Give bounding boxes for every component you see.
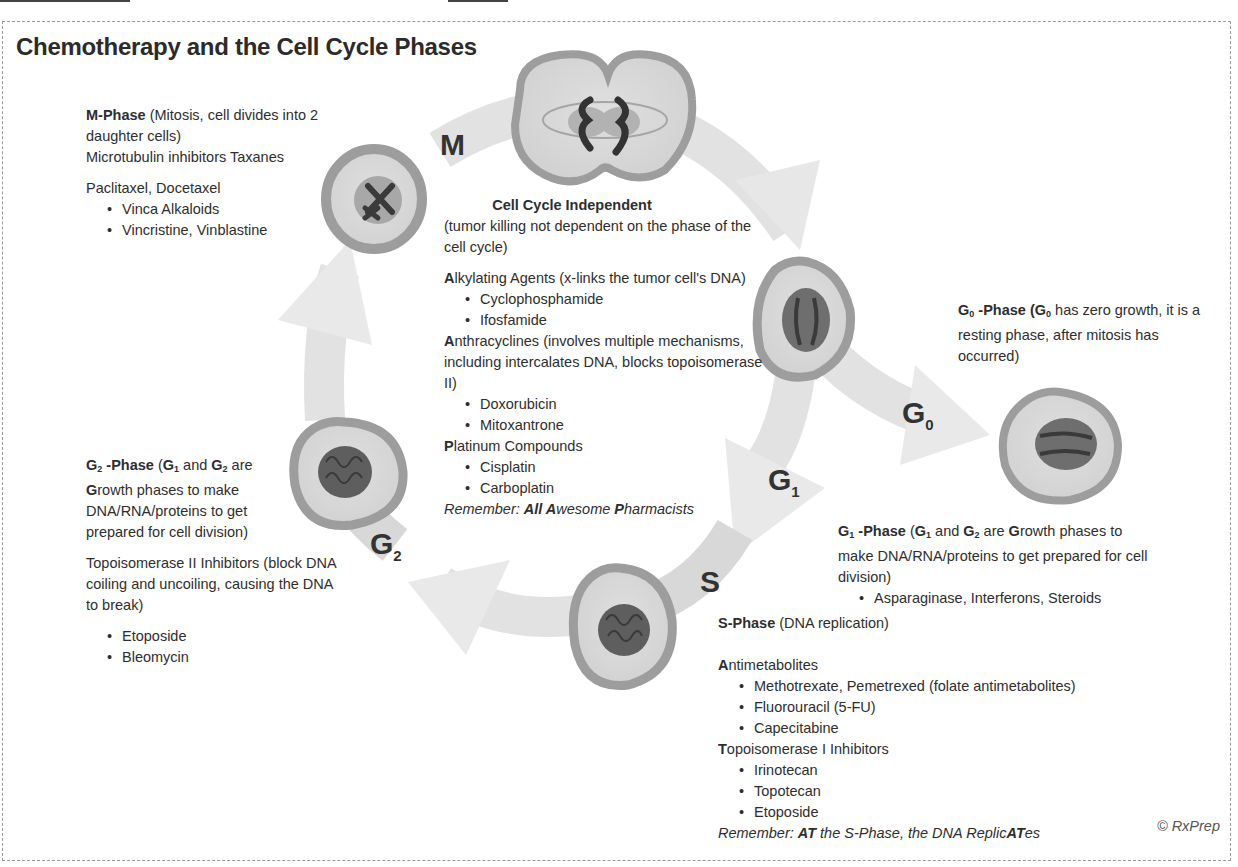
list-item: Etoposide <box>122 626 341 647</box>
list-item: Carboplatin <box>480 478 774 499</box>
g2-phase-description: G2 -Phase (G1 and G2 are Growth phases t… <box>86 455 286 543</box>
g1-phase-section: G1 -Phase (G1 and G2 are Growth phases t… <box>838 521 1148 609</box>
cci-subheading: (tumor killing not dependent on the phas… <box>444 216 774 258</box>
cci-group-anthracyclines: Anthracyclines (involves multiple mechan… <box>444 331 774 394</box>
cci-anthracyclines-list: Doxorubicin Mitoxantrone <box>444 394 774 436</box>
list-item: Ifosfamide <box>480 310 774 331</box>
list-item: Vinca Alkaloids <box>122 199 336 220</box>
g1-phase-drug-list: Asparaginase, Interferons, Steroids <box>838 588 1148 609</box>
g2-phase-drug-class: Topoisomerase II Inhibitors (block DNA c… <box>86 553 341 616</box>
g0-phase-section: G0 -Phase (G0 has zero growth, it is a r… <box>958 300 1208 367</box>
m-phase-heading: M-Phase <box>86 107 146 123</box>
g2-phase-section: G2 -Phase (G1 and G2 are Growth phases t… <box>86 455 341 668</box>
cci-platinum-list: Cisplatin Carboplatin <box>444 457 774 499</box>
cci-mnemonic: Remember: All Awesome Pharmacists <box>444 499 774 520</box>
cci-group-platinum: Platinum Compounds <box>444 436 774 457</box>
m-phase-drug-class: Microtubulin inhibitors Taxanes <box>86 147 336 168</box>
s-topoisomerase-list: Irinotecan Topotecan Etoposide <box>718 760 1138 823</box>
cell-dividing-icon <box>515 54 692 181</box>
cell-s-phase-icon <box>573 568 672 686</box>
cci-alkylating-list: Cyclophosphamide Ifosfamide <box>444 289 774 331</box>
g0-phase-heading: G0 -Phase <box>958 302 1026 318</box>
list-item: Fluorouracil (5-FU) <box>754 697 1138 718</box>
list-item: Cisplatin <box>480 457 774 478</box>
cell-cycle-independent-section: Cell Cycle Independent (tumor killing no… <box>444 195 774 520</box>
g1-phase-description: G1 -Phase (G1 and G2 are Growth phases t… <box>838 521 1148 588</box>
phase-label-g0: G0 <box>902 396 934 433</box>
phase-label-s: S <box>700 565 720 599</box>
cell-g0-resting-icon <box>1003 392 1118 501</box>
phase-label-m: M <box>440 128 465 162</box>
list-item: Mitoxantrone <box>480 415 774 436</box>
list-item: Cyclophosphamide <box>480 289 774 310</box>
list-item: Asparaginase, Interferons, Steroids <box>874 588 1148 609</box>
list-item: Doxorubicin <box>480 394 774 415</box>
s-group-antimetabolites: Antimetabolites <box>718 655 1138 676</box>
list-item: Irinotecan <box>754 760 1138 781</box>
m-phase-drugs-intro: Paclitaxel, Docetaxel <box>86 178 336 199</box>
list-item: Capecitabine <box>754 718 1138 739</box>
cci-group-alkylating: Alkylating Agents (x-links the tumor cel… <box>444 268 774 289</box>
list-item: Methotrexate, Pemetrexed (folate antimet… <box>754 676 1138 697</box>
list-item: Etoposide <box>754 802 1138 823</box>
cell-prophase-icon <box>326 149 422 249</box>
s-phase-description: (DNA replication) <box>775 615 889 631</box>
list-item: Topotecan <box>754 781 1138 802</box>
phase-label-g2: G2 <box>370 527 402 564</box>
s-group-topoisomerase-i: Topoisomerase I Inhibitors <box>718 739 1138 760</box>
m-phase-drug-list: Vinca Alkaloids Vincristine, Vinblastine <box>86 199 336 241</box>
g2-phase-drug-list: Etoposide Bleomycin <box>86 626 341 668</box>
m-phase-section: M-Phase (Mitosis, cell divides into 2 da… <box>86 105 336 241</box>
copyright: © RxPrep <box>1157 818 1220 834</box>
s-phase-section: S-Phase (DNA replication) Antimetabolite… <box>718 613 1138 844</box>
cci-heading: Cell Cycle Independent <box>444 195 700 216</box>
list-item: Vincristine, Vinblastine <box>122 220 336 241</box>
s-antimetabolites-list: Methotrexate, Pemetrexed (folate antimet… <box>718 676 1138 739</box>
s-phase-heading: S-Phase <box>718 615 775 631</box>
list-item: Bleomycin <box>122 647 341 668</box>
s-mnemonic: Remember: AT the S-Phase, the DNA Replic… <box>718 823 1138 844</box>
